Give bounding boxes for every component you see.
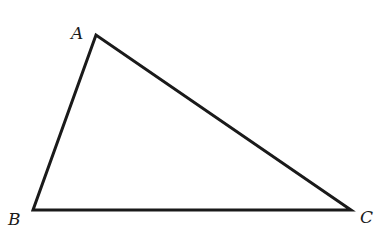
vertex-label-b: B: [7, 209, 21, 229]
triangle-diagram: A B C: [0, 0, 381, 242]
vertex-label-c: C: [360, 207, 373, 227]
triangle-abc: [33, 35, 351, 210]
vertex-label-a: A: [69, 23, 83, 43]
